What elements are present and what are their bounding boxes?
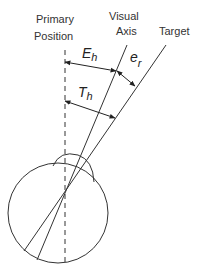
visual-axis-line bbox=[37, 45, 127, 260]
eye-horizontal-symbol: Eh bbox=[82, 45, 97, 63]
target-line bbox=[24, 45, 166, 251]
primary-position-label-line2: Position bbox=[34, 30, 73, 42]
eyeball-circle bbox=[8, 163, 108, 263]
visual-axis-label-line1: Visual bbox=[109, 10, 139, 22]
error-angle-arrow bbox=[117, 71, 135, 86]
target-label: Target bbox=[159, 25, 190, 37]
eye-gaze-diagram: Primary Position Visual Axis Target Eh e… bbox=[0, 0, 197, 276]
target-horizontal-angle-arrow bbox=[65, 101, 115, 118]
primary-position-label-line1: Primary bbox=[36, 13, 74, 25]
visual-axis-label-line2: Axis bbox=[116, 25, 137, 37]
eye-horizontal-angle-arrow bbox=[65, 62, 116, 71]
error-symbol: er bbox=[130, 49, 143, 69]
target-horizontal-symbol: Th bbox=[78, 84, 93, 102]
